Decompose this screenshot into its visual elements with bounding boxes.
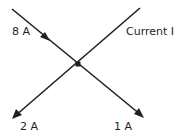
label-current-I: Current I <box>126 26 174 38</box>
label-1A: 1 A <box>114 121 132 133</box>
junction-diagram: 8 A Current I 2 A 1 A <box>0 0 179 139</box>
label-8A: 8 A <box>12 26 30 38</box>
label-2A: 2 A <box>20 121 38 133</box>
junction-node-icon <box>76 62 81 67</box>
junction-diagram-svg <box>0 0 179 139</box>
